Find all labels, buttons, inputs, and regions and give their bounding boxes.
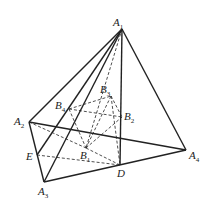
label-B4: B4	[55, 100, 65, 114]
diagram-canvas	[0, 0, 209, 208]
dashed-edge-B1-D	[86, 148, 120, 165]
label-B3: B3	[100, 84, 110, 98]
label-B1: B1	[80, 150, 90, 164]
label-D: D	[117, 168, 125, 179]
edge-A1-D	[120, 29, 122, 165]
label-A1: A1	[113, 17, 123, 31]
label-B2: B2	[124, 111, 134, 125]
tetrahedron-diagram: A1A2A3A4DEB1B2B3B4	[0, 0, 209, 208]
dashed-edge-E-D	[37, 155, 120, 165]
label-A3: A3	[38, 186, 48, 200]
edge-A1-A4	[122, 29, 186, 150]
label-A2: A2	[14, 116, 24, 130]
dashed-edge-B3-B1	[86, 96, 111, 148]
label-A4: A4	[189, 150, 199, 164]
dashed-edge-B3-D	[111, 96, 120, 165]
edge-A2-A4	[29, 122, 186, 150]
edge-A3-A4	[44, 150, 186, 182]
dashed-edge-A2-B1	[29, 122, 86, 148]
label-E: E	[26, 151, 33, 162]
edge-A1-A2	[29, 29, 122, 122]
